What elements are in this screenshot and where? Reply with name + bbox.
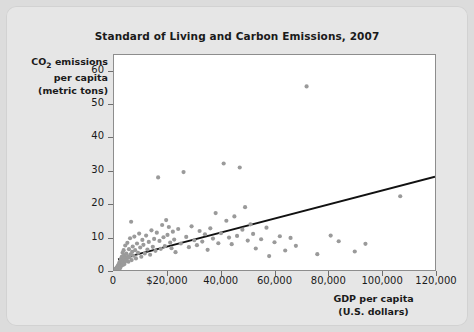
chart-title: Standard of Living and Carbon Emissions,… <box>6 30 468 42</box>
y-tick-label: 50 <box>68 97 104 108</box>
scatter-point <box>172 237 176 241</box>
y-tick-label: 40 <box>68 130 104 141</box>
x-tick-mark <box>275 271 276 276</box>
figure-card: Standard of Living and Carbon Emissions,… <box>6 6 468 326</box>
x-tick-mark <box>167 271 168 276</box>
scatter-point <box>224 219 228 223</box>
scatter-point <box>167 225 171 229</box>
scatter-point <box>159 247 163 251</box>
scatter-point <box>203 232 207 236</box>
scatter-point <box>161 235 165 239</box>
scatter-point <box>315 252 319 256</box>
scatter-point <box>329 234 333 238</box>
scatter-point <box>153 249 157 253</box>
scatter-point <box>200 239 204 243</box>
scatter-points-layer <box>114 55 435 270</box>
scatter-point <box>145 247 149 251</box>
scatter-point <box>305 84 309 88</box>
scatter-point <box>144 234 148 238</box>
scatter-point <box>137 232 141 236</box>
scatter-point <box>251 232 255 236</box>
scatter-point <box>184 235 188 239</box>
scatter-point <box>267 254 271 258</box>
scatter-point <box>140 238 144 242</box>
scatter-point <box>219 231 223 235</box>
scatter-point <box>272 240 276 244</box>
y-axis-co2-text: CO <box>31 56 46 67</box>
scatter-point <box>157 239 161 243</box>
scatter-point <box>173 250 177 254</box>
scatter-point <box>254 246 258 250</box>
scatter-point <box>211 236 215 240</box>
scatter-point <box>127 247 131 251</box>
y-tick-mark <box>108 271 113 272</box>
scatter-point <box>169 246 173 250</box>
scatter-point <box>214 211 218 215</box>
scatter-point <box>168 240 172 244</box>
scatter-point <box>163 244 167 248</box>
scatter-point <box>129 220 133 224</box>
scatter-point <box>176 227 180 231</box>
scatter-point <box>128 236 132 240</box>
scatter-point <box>192 238 196 242</box>
x-axis-title-line2: (U.S. dollars) <box>338 306 408 317</box>
scatter-point <box>246 238 250 242</box>
scatter-point <box>152 237 156 241</box>
scatter-point <box>151 245 155 249</box>
scatter-point <box>235 234 239 238</box>
scatter-point <box>198 229 202 233</box>
scatter-point <box>398 194 402 198</box>
plot-area <box>113 54 436 271</box>
x-axis-title-line1: GDP per capita <box>333 293 413 304</box>
y-tick-label: 10 <box>68 231 104 242</box>
x-tick-mark <box>436 271 437 276</box>
scatter-point <box>134 256 138 260</box>
y-axis-title: CO2 emissions per capita (metric tons) <box>8 56 108 97</box>
y-tick-label: 60 <box>68 64 104 75</box>
scatter-point <box>248 222 252 226</box>
scatter-point <box>138 245 142 249</box>
scatter-point <box>238 165 242 169</box>
scatter-point <box>189 224 193 228</box>
scatter-point <box>136 251 140 255</box>
y-axis-title-line3: (metric tons) <box>38 85 108 96</box>
scatter-point <box>264 226 268 230</box>
scatter-point <box>278 234 282 238</box>
scatter-point <box>147 240 151 244</box>
scatter-point <box>206 248 210 252</box>
x-tick-mark <box>382 271 383 276</box>
scatter-point <box>195 243 199 247</box>
x-axis-title: GDP per capita (U.S. dollars) <box>306 293 441 318</box>
scatter-point <box>288 236 292 240</box>
scatter-point <box>139 255 143 259</box>
scatter-point <box>216 241 220 245</box>
scatter-point <box>179 241 183 245</box>
scatter-point <box>130 258 134 262</box>
scatter-point <box>243 205 247 209</box>
scatter-point <box>171 230 175 234</box>
scatter-point <box>148 253 152 257</box>
scatter-point <box>165 233 169 237</box>
scatter-point <box>181 170 185 174</box>
scatter-point <box>135 241 139 245</box>
scatter-point <box>125 241 129 245</box>
scatter-point <box>208 226 212 230</box>
scatter-point <box>187 245 191 249</box>
scatter-point <box>222 161 226 165</box>
x-tick-label: 120,000 <box>401 275 471 286</box>
scatter-point <box>240 228 244 232</box>
scatter-point <box>149 228 153 232</box>
scatter-point <box>227 236 231 240</box>
scatter-point <box>283 248 287 252</box>
scatter-point <box>337 239 341 243</box>
scatter-point <box>294 244 298 248</box>
scatter-point <box>232 214 236 218</box>
scatter-point <box>363 242 367 246</box>
y-tick-label: 30 <box>68 164 104 175</box>
scatter-point <box>155 231 159 235</box>
scatter-point <box>143 251 147 255</box>
y-tick-label: 20 <box>68 197 104 208</box>
y-tick-label: 0 <box>68 264 104 275</box>
scatter-point <box>131 244 135 248</box>
x-tick-mark <box>328 271 329 276</box>
